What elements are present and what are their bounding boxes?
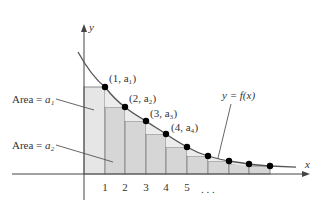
- point-3: [143, 118, 149, 124]
- point-label-3: (3, a₃): [150, 107, 177, 120]
- curve-label-func: f(x): [240, 89, 256, 102]
- tick-2: 2: [122, 181, 128, 193]
- tick-ellipsis: . . .: [201, 183, 215, 195]
- point-4: [163, 131, 169, 137]
- area-a1-prefix: Area =: [12, 93, 45, 105]
- area-a1-var: a₁: [45, 93, 55, 105]
- point-label-1: (1, a₁): [109, 72, 136, 85]
- rect-area-a6: [187, 156, 208, 174]
- point-label-4: (4, a₄): [171, 121, 198, 134]
- point-5: [184, 144, 190, 150]
- area-a2-var: a₂: [45, 139, 55, 151]
- tick-1: 1: [102, 181, 108, 193]
- point-1: [102, 84, 108, 90]
- x-axis-arrow-icon: [302, 171, 310, 177]
- y-axis-arrow-icon: [81, 24, 87, 32]
- rect-area-a4: [146, 134, 166, 174]
- y-axis-label: y: [88, 21, 94, 33]
- point-8: [246, 161, 252, 167]
- point-label-2: (2, a₂): [129, 92, 156, 105]
- curve-label-prefix: y =: [221, 89, 240, 101]
- rect-area-a5: [166, 147, 187, 174]
- riemann-sum-diagram: y x 1 2 3 4 5 . . . (1, a₁) (2, a₂) (3, …: [0, 0, 322, 210]
- point-2: [122, 104, 128, 110]
- point-9: [267, 163, 273, 169]
- rect-area-a7: [208, 161, 229, 174]
- rect-area-a2: [105, 107, 125, 174]
- point-7: [226, 158, 232, 164]
- tick-labels: 1 2 3 4 5 . . .: [102, 181, 215, 195]
- point-6: [205, 153, 211, 159]
- curve-label-leader: [218, 104, 231, 158]
- rect-area-a3: [125, 121, 146, 174]
- rect-area-a1: [84, 87, 105, 174]
- x-axis-label: x: [304, 158, 310, 170]
- rect-area-a9: [249, 166, 270, 174]
- curve-label: y = f(x): [221, 89, 255, 102]
- area-a1-label: Area = a₁: [12, 93, 55, 105]
- tick-5: 5: [184, 181, 190, 193]
- tick-3: 3: [143, 181, 149, 193]
- tick-4: 4: [163, 181, 169, 193]
- area-a2-label: Area = a₂: [12, 139, 55, 151]
- area-a2-prefix: Area =: [12, 139, 45, 151]
